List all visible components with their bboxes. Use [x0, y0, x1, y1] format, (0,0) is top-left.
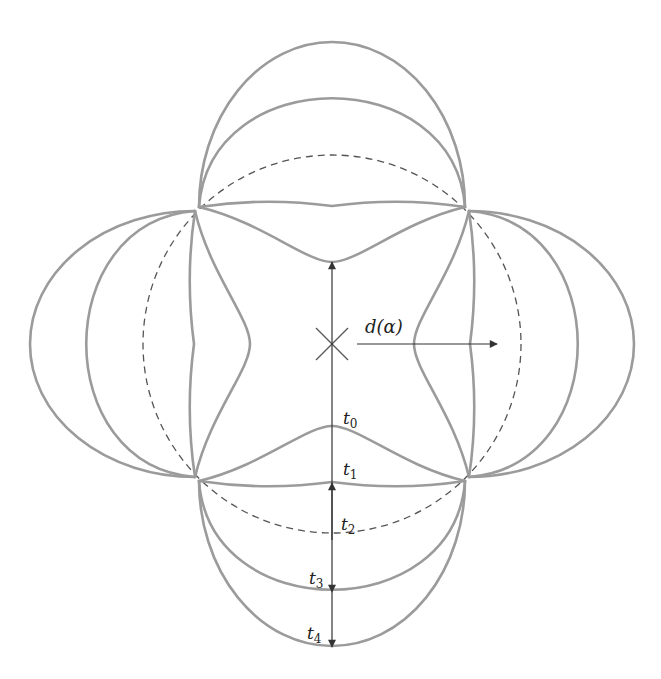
evolving-boundary-diagram: d(α) t0 t1 t2 t3 t4: [0, 0, 661, 679]
label-t4: t4: [307, 623, 322, 646]
label-t2: t2: [341, 514, 355, 537]
label-d-alpha: d(α): [365, 316, 403, 337]
label-t0: t0: [343, 408, 357, 431]
label-t1: t1: [343, 459, 357, 482]
label-t3: t3: [309, 568, 323, 591]
